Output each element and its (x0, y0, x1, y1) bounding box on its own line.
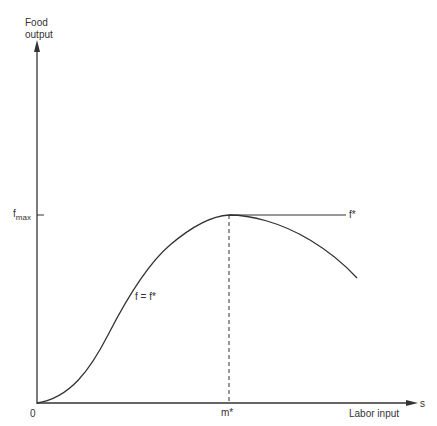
production-curve (37, 215, 357, 403)
y-axis-label-line2: output (25, 29, 53, 40)
f-star-label: f* (349, 209, 356, 220)
fmax-label: fmax (13, 208, 31, 223)
y-axis-label-line1: Food (25, 17, 48, 28)
y-axis-arrow-icon (34, 40, 40, 52)
curve-label: f = f* (135, 291, 156, 302)
fmax-sub: max (16, 213, 31, 222)
x-axis-arrow-icon (406, 400, 418, 406)
s-label: s (420, 398, 425, 409)
origin-label: 0 (30, 408, 36, 419)
m-star-label: m* (221, 407, 233, 418)
production-diagram (0, 0, 437, 426)
x-axis-label: Labor input (349, 408, 399, 419)
